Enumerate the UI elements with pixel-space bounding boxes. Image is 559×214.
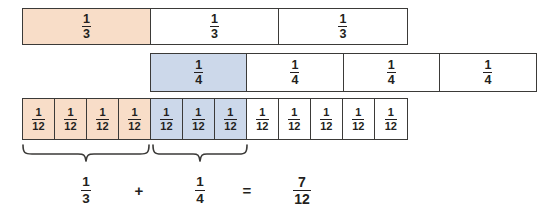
fraction-numerator: 1 xyxy=(387,59,396,73)
fraction-one-twelfth: 1 12 xyxy=(192,107,204,132)
fraction-numerator: 1 xyxy=(259,107,265,119)
fraction-numerator: 1 xyxy=(210,13,219,27)
fraction-denominator: 4 xyxy=(290,72,299,87)
fraction-one-third: 1 3 xyxy=(338,13,347,41)
fraction-cell: 1 12 xyxy=(247,99,279,139)
fraction-numerator: 1 xyxy=(81,175,91,190)
fraction-denominator: 12 xyxy=(288,119,300,132)
fraction-cell: 1 12 xyxy=(311,99,343,139)
fraction-one-twelfth: 1 12 xyxy=(160,107,172,132)
fraction-cell: 1 12 xyxy=(151,99,183,139)
fraction-cell: 1 3 xyxy=(279,9,407,44)
fraction-cell: 1 3 xyxy=(23,9,151,44)
fraction-cell: 1 12 xyxy=(55,99,87,139)
fraction-cell: 1 12 xyxy=(183,99,215,139)
fraction-numerator: 1 xyxy=(194,59,203,73)
fraction-numerator: 1 xyxy=(338,13,347,27)
fraction-bar-thirds: 1 3 1 3 1 3 xyxy=(22,8,408,45)
fraction-bar-fourths: 1 4 1 4 1 4 1 4 xyxy=(150,53,537,92)
fraction-one-twelfth: 1 12 xyxy=(32,107,44,132)
fraction-denominator: 12 xyxy=(256,119,268,132)
fraction-numerator: 1 xyxy=(388,107,394,119)
fraction-denominator: 4 xyxy=(387,72,396,87)
fraction-denominator: 12 xyxy=(320,119,332,132)
fraction-cell: 1 12 xyxy=(87,99,119,139)
equation-left-fraction: 1 3 xyxy=(62,172,110,208)
fraction-numerator: 1 xyxy=(67,107,73,119)
fraction-one-fourth: 1 4 xyxy=(194,59,203,87)
fraction-numerator: 7 xyxy=(297,175,307,190)
fraction-denominator: 12 xyxy=(293,190,311,206)
fraction-numerator: 1 xyxy=(227,107,233,119)
fraction-numerator: 1 xyxy=(290,59,299,73)
fraction-bar-diagram: 1 3 1 3 1 3 1 4 1 4 xyxy=(0,0,559,214)
equation-plus-operator: + xyxy=(126,172,152,208)
fraction-one-twelfth: 1 12 xyxy=(224,107,236,132)
fraction-denominator: 12 xyxy=(160,119,172,132)
fraction-one-twelfth: 1 12 xyxy=(256,107,268,132)
fraction-numerator: 1 xyxy=(323,107,329,119)
fraction-cell: 1 12 xyxy=(23,99,55,139)
fraction-cell: 1 4 xyxy=(440,54,536,91)
fraction-numerator: 1 xyxy=(163,107,169,119)
equation-equals-sign: = xyxy=(234,172,260,208)
fraction-one-fourth: 1 4 xyxy=(387,59,396,87)
fraction-cell: 1 12 xyxy=(119,99,151,139)
fraction-numerator: 1 xyxy=(291,107,297,119)
fraction-one-fourth: 1 4 xyxy=(195,175,205,205)
fraction-one-fourth: 1 4 xyxy=(290,59,299,87)
fraction-cell: 1 4 xyxy=(151,54,247,91)
fraction-one-twelfth: 1 12 xyxy=(96,107,108,132)
fraction-cell: 1 4 xyxy=(344,54,440,91)
fraction-one-twelfth: 1 12 xyxy=(320,107,332,132)
fraction-one-twelfth: 1 12 xyxy=(288,107,300,132)
fraction-one-third: 1 3 xyxy=(82,13,91,41)
fraction-denominator: 3 xyxy=(210,26,219,41)
fraction-numerator: 1 xyxy=(82,13,91,27)
fraction-denominator: 4 xyxy=(195,190,205,206)
fraction-denominator: 12 xyxy=(385,119,397,132)
fraction-denominator: 3 xyxy=(81,190,91,206)
fraction-cell: 1 12 xyxy=(375,99,407,139)
fraction-denominator: 4 xyxy=(483,72,492,87)
fraction-cell: 1 12 xyxy=(279,99,311,139)
fraction-cell: 1 3 xyxy=(151,9,279,44)
equation-right-fraction: 1 4 xyxy=(176,172,224,208)
fraction-denominator: 12 xyxy=(192,119,204,132)
fraction-denominator: 3 xyxy=(82,26,91,41)
fraction-denominator: 12 xyxy=(64,119,76,132)
fraction-denominator: 3 xyxy=(338,26,347,41)
fraction-denominator: 12 xyxy=(96,119,108,132)
fraction-denominator: 12 xyxy=(352,119,364,132)
fraction-cell: 1 12 xyxy=(215,99,247,139)
brace-fourths-icon xyxy=(152,144,248,162)
fraction-one-twelfth: 1 12 xyxy=(64,107,76,132)
fraction-cell: 1 4 xyxy=(247,54,343,91)
fraction-one-third: 1 3 xyxy=(81,175,91,205)
fraction-one-third: 1 3 xyxy=(210,13,219,41)
fraction-numerator: 1 xyxy=(99,107,105,119)
brace-thirds-icon xyxy=(22,144,150,162)
fraction-one-fourth: 1 4 xyxy=(483,59,492,87)
fraction-numerator: 1 xyxy=(131,107,137,119)
fraction-bar-twelfths: 1 12 1 12 1 12 1 12 1 12 xyxy=(22,98,408,140)
fraction-denominator: 12 xyxy=(32,119,44,132)
fraction-numerator: 1 xyxy=(35,107,41,119)
fraction-one-twelfth: 1 12 xyxy=(352,107,364,132)
fraction-denominator: 12 xyxy=(224,119,236,132)
fraction-seven-twelfths: 7 12 xyxy=(293,175,311,206)
fraction-numerator: 1 xyxy=(195,107,201,119)
fraction-one-twelfth: 1 12 xyxy=(385,107,397,132)
fraction-numerator: 1 xyxy=(355,107,361,119)
fraction-cell: 1 12 xyxy=(343,99,375,139)
fraction-numerator: 1 xyxy=(483,59,492,73)
fraction-numerator: 1 xyxy=(195,175,205,190)
equation-result-fraction: 7 12 xyxy=(278,170,326,210)
fraction-one-twelfth: 1 12 xyxy=(128,107,140,132)
fraction-denominator: 12 xyxy=(128,119,140,132)
fraction-denominator: 4 xyxy=(194,72,203,87)
